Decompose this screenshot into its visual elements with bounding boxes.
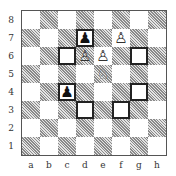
square-g1 <box>130 137 148 155</box>
square-f7: ♙ <box>112 29 130 47</box>
square-a6 <box>22 47 40 65</box>
square-d8 <box>76 11 94 29</box>
square-d6: ♙ <box>76 47 94 65</box>
black-pawn-icon: ♟ <box>76 29 94 47</box>
square-h6 <box>148 47 166 65</box>
square-f4 <box>112 83 130 101</box>
square-g2 <box>130 119 148 137</box>
square-a3 <box>22 101 40 119</box>
square-g4 <box>130 83 148 101</box>
square-e2 <box>94 119 112 137</box>
square-d4 <box>76 83 94 101</box>
square-e7 <box>94 29 112 47</box>
square-c8 <box>58 11 76 29</box>
file-label: c <box>58 160 76 170</box>
square-b5 <box>40 65 58 83</box>
square-c1 <box>58 137 76 155</box>
file-label: e <box>94 160 112 170</box>
square-g8 <box>130 11 148 29</box>
white-pawn-icon: ♙ <box>94 47 112 65</box>
rank-label: 2 <box>6 119 16 137</box>
rank-label: 4 <box>6 83 16 101</box>
square-e5: ♘ <box>94 65 112 83</box>
square-d5 <box>76 65 94 83</box>
rank-label: 5 <box>6 65 16 83</box>
square-b4 <box>40 83 58 101</box>
square-c2 <box>58 119 76 137</box>
square-f1 <box>112 137 130 155</box>
square-g6 <box>130 47 148 65</box>
square-h8 <box>148 11 166 29</box>
square-h1 <box>148 137 166 155</box>
square-a2 <box>22 119 40 137</box>
square-e3 <box>94 101 112 119</box>
square-b8 <box>40 11 58 29</box>
chess-board: ♟♙♙♙♘♟ <box>21 10 167 156</box>
square-a4 <box>22 83 40 101</box>
file-label: d <box>76 160 94 170</box>
rank-label: 7 <box>6 29 16 47</box>
square-b7 <box>40 29 58 47</box>
square-f2 <box>112 119 130 137</box>
square-c6 <box>58 47 76 65</box>
rank-label: 8 <box>6 11 16 29</box>
rank-label: 6 <box>6 47 16 65</box>
file-label: a <box>22 160 40 170</box>
square-d2 <box>76 119 94 137</box>
square-c4: ♟ <box>58 83 76 101</box>
square-c7 <box>58 29 76 47</box>
square-c3 <box>58 101 76 119</box>
square-a8 <box>22 11 40 29</box>
white-knight-icon: ♘ <box>94 65 112 83</box>
square-a5 <box>22 65 40 83</box>
rank-label: 3 <box>6 101 16 119</box>
square-d1 <box>76 137 94 155</box>
black-pawn-icon: ♟ <box>58 83 76 101</box>
square-a7 <box>22 29 40 47</box>
square-h3 <box>148 101 166 119</box>
square-e8 <box>94 11 112 29</box>
square-d3 <box>76 101 94 119</box>
square-d7: ♟ <box>76 29 94 47</box>
square-b1 <box>40 137 58 155</box>
square-e4 <box>94 83 112 101</box>
square-c5 <box>58 65 76 83</box>
square-f6 <box>112 47 130 65</box>
square-h4 <box>148 83 166 101</box>
square-e1 <box>94 137 112 155</box>
file-label: b <box>40 160 58 170</box>
square-b2 <box>40 119 58 137</box>
square-h7 <box>148 29 166 47</box>
square-b6 <box>40 47 58 65</box>
file-label: g <box>130 160 148 170</box>
square-g3 <box>130 101 148 119</box>
white-pawn-icon: ♙ <box>112 29 130 47</box>
square-h5 <box>148 65 166 83</box>
square-f5 <box>112 65 130 83</box>
file-label: h <box>148 160 166 170</box>
white-pawn-icon: ♙ <box>76 47 94 65</box>
square-g5 <box>130 65 148 83</box>
file-label: f <box>112 160 130 170</box>
square-a1 <box>22 137 40 155</box>
square-e6: ♙ <box>94 47 112 65</box>
square-f3 <box>112 101 130 119</box>
square-f8 <box>112 11 130 29</box>
square-b3 <box>40 101 58 119</box>
square-g7 <box>130 29 148 47</box>
rank-label: 1 <box>6 137 16 155</box>
square-h2 <box>148 119 166 137</box>
